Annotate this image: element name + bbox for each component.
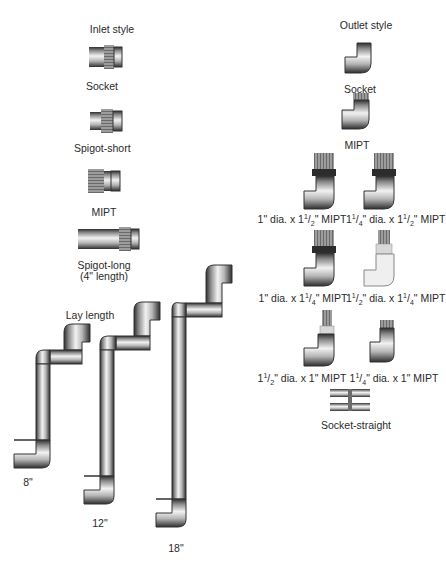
inlet-mipt-icon [88, 168, 124, 194]
inlet-spigot-short-label: Spigot-short [74, 142, 130, 154]
outlet-mipt-label: MIPT [340, 139, 374, 151]
socket-straight-label: Socket-straight [320, 419, 392, 431]
outlet-socket-elbow-icon [343, 41, 373, 75]
mipt-variant-label-6: 11/4" dia. x 1" MIPT [346, 372, 442, 389]
mipt-1-1-2x1-icon [302, 310, 338, 366]
riser-12in-icon [84, 300, 164, 510]
mipt-1-1-4x1-1-2-icon [362, 153, 398, 209]
inlet-spigot-short-icon [90, 108, 124, 134]
outlet-style-heading: Outlet style [335, 19, 397, 31]
riser-8in-label: 8" [20, 476, 36, 488]
mipt-variant-label-5: 11/2" dia. x 1" MIPT [254, 372, 350, 389]
inlet-mipt-label: MIPT [84, 206, 124, 218]
riser-12in-label: 12" [88, 517, 112, 529]
inlet-socket-label: Socket [82, 80, 122, 92]
inlet-style-heading: Inlet style [82, 23, 142, 35]
mipt-variant-label-4: 11/2" dia. x 11/4" MIPT [346, 292, 442, 309]
mipt-1-1-4x1-icon [368, 320, 400, 364]
mipt-variant-label-1: 1" dia. x 11/2" MIPT [254, 213, 350, 230]
mipt-variant-label-2: 11/4" dia. x 11/2" MIPT [346, 213, 442, 230]
riser-18in-label: 18" [164, 542, 188, 554]
inlet-spigot-long-icon [78, 226, 142, 252]
riser-8in-icon [14, 322, 94, 472]
outlet-mipt-elbow-icon [340, 93, 374, 131]
riser-18in-icon [156, 263, 236, 533]
mipt-1x1-1-4-icon [302, 230, 338, 286]
mipt-1-1-2x1-1-4-icon [362, 230, 398, 286]
socket-straight-icon [330, 389, 370, 413]
inlet-socket-icon [89, 44, 123, 70]
inlet-spigot-long-sublabel: (4" length) [74, 270, 134, 282]
mipt-variant-label-3: 1" dia. x 11/4" MIPT [254, 292, 352, 309]
mipt-1x1-1-2-icon [302, 153, 338, 209]
